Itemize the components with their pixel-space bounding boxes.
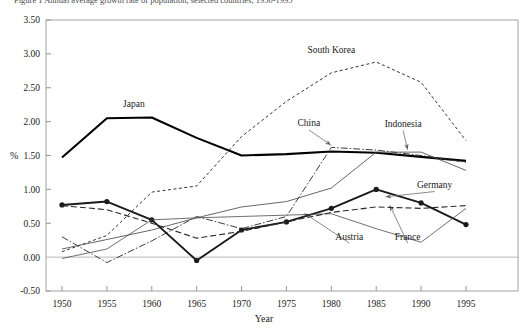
series-label-china: China — [298, 118, 321, 128]
series-label-france: France — [395, 232, 421, 242]
y-axis-tick-label: 3.50 — [23, 15, 40, 25]
x-axis-title: Year — [255, 313, 274, 324]
series-marker-germany — [463, 222, 468, 227]
x-axis-tick-label: 1995 — [457, 299, 476, 309]
y-axis-tick-label: -0.50 — [20, 286, 40, 296]
leader-line-indonesia — [403, 131, 407, 151]
series-marker-germany — [104, 199, 109, 204]
y-axis-title: % — [10, 150, 18, 161]
x-axis-tick-label: 1990 — [412, 299, 431, 309]
x-axis-tick-label: 1965 — [187, 299, 206, 309]
line-chart: 3.503.002.502.001.501.000.500.00-0.50%19… — [0, 0, 531, 329]
leader-line-china — [309, 130, 331, 146]
series-marker-germany — [374, 187, 379, 192]
y-axis-tick-label: 0.50 — [23, 219, 40, 229]
y-axis-tick-label: 1.00 — [23, 185, 40, 195]
series-marker-germany — [329, 206, 334, 211]
series-marker-germany — [59, 202, 64, 207]
x-axis-tick-label: 1970 — [232, 299, 251, 309]
x-axis-tick-label: 1950 — [53, 299, 72, 309]
series-line-china — [62, 147, 466, 262]
y-axis-tick-label: 0.00 — [23, 253, 40, 263]
series-marker-germany — [419, 200, 424, 205]
y-axis-tick-label: 1.50 — [23, 151, 40, 161]
series-marker-germany — [194, 258, 199, 263]
series-label-japan: Japan — [123, 99, 145, 109]
plot-frame — [46, 20, 518, 291]
chart-canvas: 3.503.002.502.001.501.000.500.00-0.50%19… — [0, 0, 531, 329]
series-label-indonesia: Indonesia — [385, 119, 423, 129]
series-label-south-korea: South Korea — [307, 45, 356, 55]
y-axis-tick-label: 2.50 — [23, 83, 40, 93]
series-line-south-korea — [62, 62, 466, 252]
x-axis-tick-label: 1975 — [277, 299, 296, 309]
series-label-austria: Austria — [335, 232, 364, 242]
y-axis-tick-label: 3.00 — [23, 49, 40, 59]
y-axis-tick-label: 2.00 — [23, 117, 40, 127]
series-line-germany — [62, 189, 466, 260]
x-axis-tick-label: 1955 — [97, 299, 116, 309]
series-label-germany: Germany — [417, 180, 453, 190]
x-axis-tick-label: 1980 — [322, 299, 341, 309]
x-axis-tick-label: 1985 — [367, 299, 386, 309]
x-axis-tick-label: 1960 — [142, 299, 161, 309]
